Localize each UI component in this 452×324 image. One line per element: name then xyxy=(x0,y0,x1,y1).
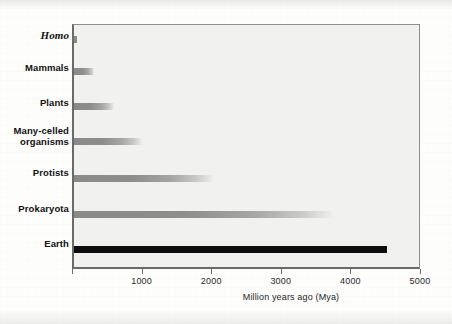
category-label-plants: Plants xyxy=(40,97,69,108)
x-axis-tick-label: 4000 xyxy=(340,276,361,286)
category-label-many-celled-organisms: Many-celled organisms xyxy=(14,125,69,147)
chart-page: Homo Mammals Plants Many-celled organism… xyxy=(0,0,452,324)
category-label-earth: Earth xyxy=(44,238,69,249)
x-axis-tick-mark xyxy=(142,269,143,274)
bar-many-celled-organisms xyxy=(74,138,142,145)
bar-row-prokaryota xyxy=(74,201,332,227)
bar-row-earth xyxy=(74,236,387,262)
category-label-protists: Protists xyxy=(33,167,69,178)
bar-protists xyxy=(74,175,213,182)
bar-mammals xyxy=(74,68,94,75)
bar-earth xyxy=(74,246,387,253)
x-axis-tick-mark xyxy=(350,269,351,274)
bar-homo xyxy=(74,36,77,43)
plot-area xyxy=(72,24,420,269)
x-axis-title: Million years ago (Mya) xyxy=(0,292,452,302)
bar-plants xyxy=(74,103,114,110)
x-axis-tick-mark xyxy=(281,269,282,274)
scan-top-smudge xyxy=(0,0,452,9)
x-axis-tick-label: 5000 xyxy=(410,276,431,286)
category-label-mammals: Mammals xyxy=(25,62,69,73)
x-axis-tick-label: 1000 xyxy=(131,276,152,286)
bar-row-homo xyxy=(74,26,77,52)
plot-inner xyxy=(74,25,419,267)
x-axis-tick-label: 3000 xyxy=(270,276,291,286)
bar-row-many-celled-organisms xyxy=(74,128,142,154)
x-axis-tick-mark xyxy=(420,269,421,274)
scan-bottom-smudge xyxy=(0,310,452,324)
x-axis-tick-mark xyxy=(211,269,212,274)
x-axis-tick-label: 2000 xyxy=(201,276,222,286)
bar-row-plants xyxy=(74,93,114,119)
category-label-homo: Homo xyxy=(40,30,69,41)
bar-prokaryota xyxy=(74,211,332,218)
bar-row-protists xyxy=(74,165,213,191)
x-axis-tick-mark xyxy=(72,269,73,274)
category-label-prokaryota: Prokaryota xyxy=(18,203,69,214)
bar-row-mammals xyxy=(74,58,94,84)
